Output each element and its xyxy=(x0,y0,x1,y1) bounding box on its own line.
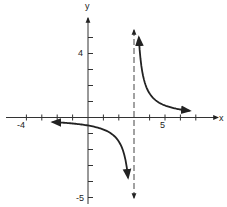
x-tick-label-5: 5 xyxy=(160,121,165,130)
right-branch-curve xyxy=(139,38,190,111)
y-axis-label: y xyxy=(85,2,90,11)
function-plot xyxy=(0,0,227,207)
y-tick-label-4: 4 xyxy=(78,49,83,58)
x-axis-label: x xyxy=(219,114,224,123)
x-tick-label-neg4: -4 xyxy=(17,121,25,130)
y-tick-label-neg5: -5 xyxy=(76,194,84,203)
